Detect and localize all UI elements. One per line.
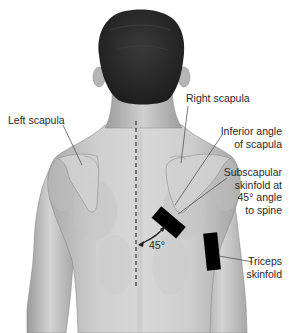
- inferior-angle-line-1: Inferior angle: [221, 125, 282, 138]
- inferior-angle-line-2: of scapula: [221, 138, 282, 151]
- subscapular-line-2: skinfold at: [224, 179, 282, 192]
- left-scapula-label: Left scapula: [8, 114, 65, 127]
- subscapular-label: Subscapular skinfold at 45° angle to spi…: [224, 166, 282, 216]
- subscapular-line-1: Subscapular: [224, 166, 282, 179]
- subscapular-line-3: 45° angle: [224, 191, 282, 204]
- right-scapula-label: Right scapula: [186, 92, 250, 105]
- head-hair: [98, 9, 184, 104]
- angle-45-label: 45°: [149, 239, 165, 251]
- triceps-label: Triceps skinfold: [246, 255, 282, 280]
- triceps-line-2: skinfold: [246, 268, 282, 281]
- triceps-line-1: Triceps: [246, 255, 282, 268]
- subscapular-line-4: to spine: [224, 204, 282, 217]
- inferior-angle-label: Inferior angle of scapula: [221, 125, 282, 150]
